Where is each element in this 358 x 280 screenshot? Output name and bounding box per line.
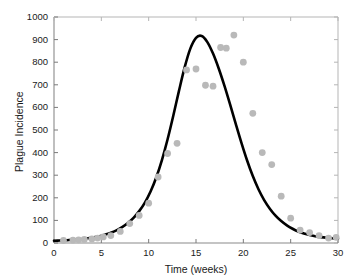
data-point xyxy=(107,232,114,239)
data-point xyxy=(297,227,304,234)
data-point xyxy=(183,66,190,73)
axes-frame xyxy=(54,17,338,243)
data-point xyxy=(278,193,285,200)
chart-canvas xyxy=(0,0,358,280)
data-point xyxy=(155,174,162,181)
y-tick-label: 200 xyxy=(8,193,48,203)
data-point xyxy=(145,200,152,207)
y-tick-label: 900 xyxy=(8,35,48,45)
data-point xyxy=(100,234,107,241)
y-tick-label: 700 xyxy=(8,80,48,90)
x-axis-title: Time (weeks) xyxy=(126,264,266,275)
y-tick-label: 1000 xyxy=(8,12,48,22)
data-point xyxy=(287,215,294,222)
data-point xyxy=(164,150,171,157)
data-point xyxy=(333,234,340,241)
data-point xyxy=(230,32,237,39)
data-point xyxy=(210,83,217,90)
data-point xyxy=(174,140,181,147)
data-point xyxy=(223,45,230,52)
data-point xyxy=(88,236,95,243)
data-point xyxy=(306,229,313,236)
data-point xyxy=(259,149,266,156)
data-point-group xyxy=(60,32,339,244)
y-tick-label: 100 xyxy=(8,215,48,225)
data-point xyxy=(249,110,256,117)
data-point xyxy=(240,59,247,66)
data-point xyxy=(117,228,124,235)
y-axis-title: Plague Incidence xyxy=(14,91,25,172)
y-tick-label: 0 xyxy=(8,238,48,248)
tick-marks xyxy=(54,17,338,243)
data-point xyxy=(268,161,275,168)
data-point xyxy=(202,82,209,89)
data-point xyxy=(126,220,133,227)
x-tick-label: 25 xyxy=(276,248,306,258)
y-tick-label: 800 xyxy=(8,57,48,67)
plague-incidence-chart: 01002003004005006007008009001000 0510152… xyxy=(0,0,358,280)
x-tick-label: 15 xyxy=(181,248,211,258)
data-point xyxy=(81,236,88,243)
x-tick-label: 0 xyxy=(39,248,69,258)
data-point xyxy=(94,235,101,242)
x-tick-label: 30 xyxy=(323,248,353,258)
data-point xyxy=(136,212,143,219)
x-tick-label: 20 xyxy=(228,248,258,258)
data-point xyxy=(316,232,323,239)
data-point xyxy=(325,235,332,242)
data-point xyxy=(193,66,200,73)
x-tick-label: 10 xyxy=(134,248,164,258)
x-tick-label: 5 xyxy=(86,248,116,258)
data-point xyxy=(60,237,67,244)
